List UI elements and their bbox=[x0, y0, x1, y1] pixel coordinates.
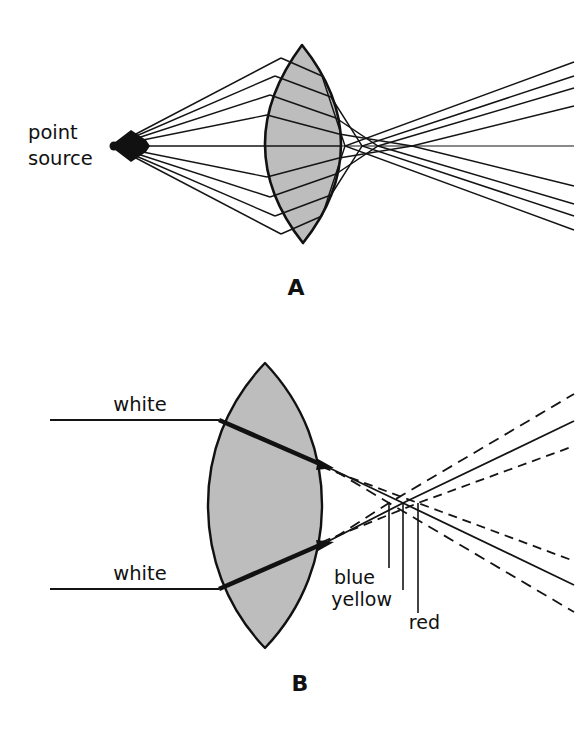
focus-label-yellow: yellow bbox=[331, 588, 392, 610]
focus-label-blue: blue bbox=[334, 566, 375, 588]
point-source-label-line2: source bbox=[28, 147, 93, 170]
point-source-label-line1: point bbox=[28, 121, 78, 144]
point-source-dot bbox=[110, 142, 119, 151]
panel-b-letter: B bbox=[292, 671, 309, 696]
focus-label-red: red bbox=[409, 611, 440, 633]
white-label-bottom: white bbox=[113, 562, 166, 585]
white-label-top: white bbox=[113, 393, 166, 416]
figure-container: point source A bbox=[0, 0, 576, 741]
aberration-figure: point source A bbox=[0, 0, 576, 741]
panel-a-letter: A bbox=[287, 275, 304, 300]
